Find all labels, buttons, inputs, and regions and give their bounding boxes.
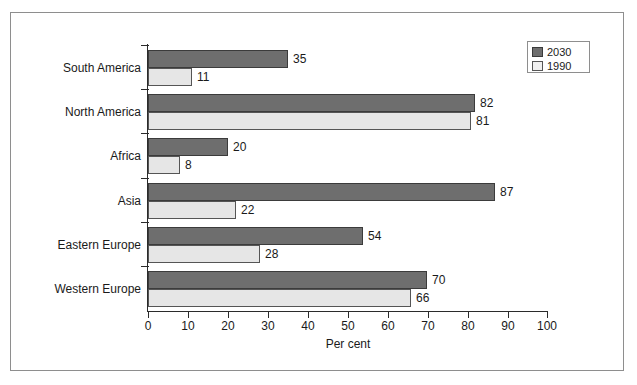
x-axis-tick-0 [148, 312, 149, 318]
x-axis-tick-20 [228, 312, 229, 318]
chart-figure: South America 35 11 North America 82 81 … [0, 0, 637, 385]
x-axis-tick-90 [508, 312, 509, 318]
bar-value-1990-north-america: 81 [476, 114, 489, 128]
bar-2030-asia [148, 183, 495, 201]
x-axis-tick-label-10: 10 [168, 319, 208, 333]
y-axis-tick [141, 45, 149, 46]
bar-2030-western-europe [148, 271, 427, 289]
bar-2030-south-america [148, 50, 288, 68]
x-axis-tick-70 [428, 312, 429, 318]
x-axis-tick-30 [268, 312, 269, 318]
light-gray-swatch-icon [532, 61, 543, 71]
bar-value-1990-africa: 8 [185, 158, 192, 172]
bar-1990-eastern-europe [148, 245, 260, 263]
bar-value-2030-asia: 87 [500, 185, 513, 199]
bar-value-2030-africa: 20 [233, 140, 246, 154]
category-label-africa: Africa [21, 149, 141, 163]
y-axis-tick [141, 266, 149, 267]
category-label-north-america: North America [21, 105, 141, 119]
legend-label-2030: 2030 [547, 46, 571, 58]
bar-2030-africa [148, 138, 228, 156]
bar-value-1990-eastern-europe: 28 [265, 247, 278, 261]
chart-legend: 2030 1990 [527, 41, 590, 73]
x-axis-tick-60 [388, 312, 389, 318]
bar-value-1990-south-america: 11 [197, 70, 209, 84]
category-label-eastern-europe: Eastern Europe [21, 238, 141, 252]
bar-value-2030-eastern-europe: 54 [368, 229, 381, 243]
bar-1990-south-america [148, 68, 192, 86]
x-axis-tick-label-100: 100 [527, 319, 567, 333]
legend-item-1990: 1990 [532, 59, 585, 72]
bar-1990-africa [148, 156, 180, 174]
category-label-asia: Asia [21, 194, 141, 208]
x-axis-title: Per cent [148, 337, 548, 351]
bar-value-2030-north-america: 82 [480, 96, 493, 110]
x-axis-tick-100 [547, 312, 548, 318]
x-axis-tick-80 [468, 312, 469, 318]
bar-value-1990-asia: 22 [241, 203, 254, 217]
x-axis-tick-10 [188, 312, 189, 318]
legend-label-1990: 1990 [547, 60, 571, 72]
x-axis-tick-label-90: 90 [488, 319, 528, 333]
bar-value-2030-south-america: 35 [293, 52, 306, 66]
y-axis-tick [141, 89, 149, 90]
y-axis-tick [141, 222, 149, 223]
x-axis-tick-label-80: 80 [448, 319, 488, 333]
y-axis-tick [141, 178, 149, 179]
x-axis-tick-label-30: 30 [248, 319, 288, 333]
dark-gray-swatch-icon [532, 47, 543, 57]
x-axis-tick-40 [308, 312, 309, 318]
plot-area: South America 35 11 North America 82 81 … [0, 0, 637, 385]
y-axis-tick [141, 133, 149, 134]
x-axis-tick-label-20: 20 [208, 319, 248, 333]
category-label-south-america: South America [21, 61, 141, 75]
bar-1990-western-europe [148, 289, 411, 307]
x-axis-tick-label-50: 50 [328, 319, 368, 333]
x-axis-tick-label-40: 40 [288, 319, 328, 333]
legend-item-2030: 2030 [532, 45, 585, 58]
bar-2030-eastern-europe [148, 227, 363, 245]
x-axis-tick-label-0: 0 [128, 319, 168, 333]
x-axis-tick-label-70: 70 [408, 319, 448, 333]
category-label-western-europe: Western Europe [21, 282, 141, 296]
bar-2030-north-america [148, 94, 475, 112]
bar-value-1990-western-europe: 66 [416, 291, 429, 305]
bar-1990-asia [148, 201, 236, 219]
x-axis-tick-50 [348, 312, 349, 318]
bar-1990-north-america [148, 112, 471, 130]
bar-value-2030-western-europe: 70 [432, 273, 445, 287]
x-axis-tick-label-60: 60 [368, 319, 408, 333]
